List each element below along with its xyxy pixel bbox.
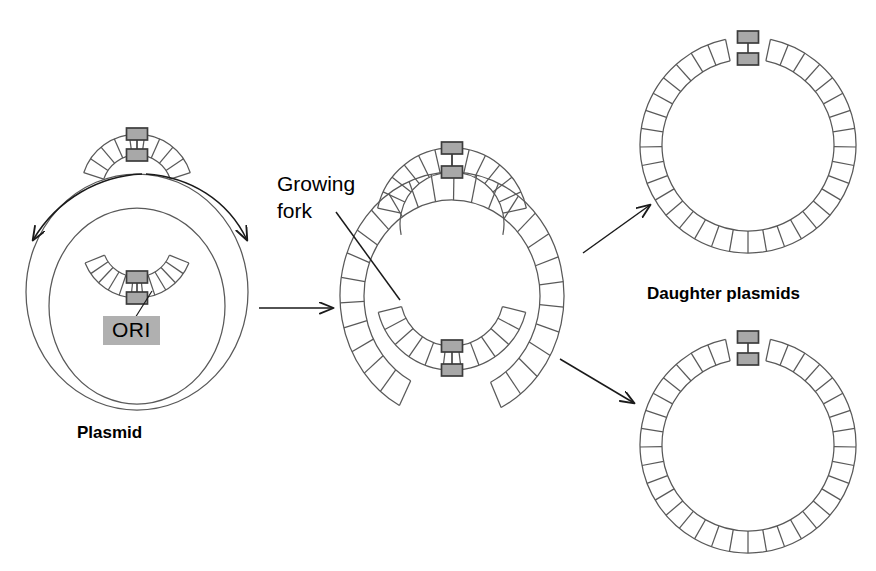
daughter-plasmid-bottom-rung [711, 526, 718, 547]
theta-eye-bottom-rung [491, 329, 509, 345]
daughter-plasmid-top-rung [655, 189, 674, 200]
daughter-plasmid-top-rung [708, 45, 716, 65]
daughter-plasmid-top-inner-strand [662, 61, 834, 231]
daughter-plasmid-top-rung [833, 128, 855, 131]
daughter-plasmid-top-rung [805, 64, 820, 80]
daughter-plasmid-top-rung [828, 176, 849, 184]
daughter-plasmid-top-rung [666, 201, 683, 215]
daughter-plasmid-bottom-rung [813, 501, 830, 515]
daughter-plasmid-bottom-rung [815, 378, 832, 392]
parent-eye-bottom-rung [108, 272, 119, 290]
daughter-plasmid-bottom-rung [828, 476, 849, 484]
daughter-plasmid-bottom-rung [647, 476, 668, 484]
daughter-plasmids-caption: Daughter plasmids [647, 284, 800, 303]
theta-outer-rung [540, 305, 564, 308]
daughter-plasmid-top-rung [663, 78, 680, 92]
replication-direction-left-arrow [33, 174, 142, 240]
theta-outer-rung [340, 301, 364, 303]
daughter-plasmid-bottom-rung [824, 393, 843, 404]
daughter-plasmid-top-rung [763, 230, 767, 252]
daughter-plasmid-top-rung [653, 93, 672, 104]
stage-parent-plasmid [26, 128, 248, 410]
theta-outer-rung [364, 356, 383, 373]
theta-outer-rung [341, 277, 365, 281]
daughter-plasmid-top-rung [793, 53, 805, 72]
theta-eye-bottom-rung [378, 307, 401, 313]
stage-daughter-plasmid-bottom [640, 331, 856, 553]
daughter-plasmid-top-rung [766, 39, 771, 61]
daughter-plasmid-top-rung [691, 53, 703, 72]
stage-arrow-2-to-bottom [560, 359, 634, 403]
theta-unreplicated-left-inner [400, 213, 401, 235]
daughter-plasmid-top-rung [647, 176, 668, 184]
ori-marker-daughter-plasmid-top-block-outer [738, 31, 759, 43]
daughter-plasmid-top-rung [726, 39, 731, 61]
parent-eye-bottom-rung [91, 262, 108, 274]
parent-eye-bottom-rung [166, 262, 183, 274]
parent-eye-top-rung [84, 173, 104, 179]
theta-outer-rung [506, 372, 521, 394]
daughter-plasmid-top-rung [729, 230, 733, 252]
daughter-plasmid-bottom-rung [676, 364, 691, 380]
daughter-plasmid-top-rung [803, 211, 817, 228]
parent-eye-bottom-rung [99, 267, 113, 282]
ori-label-chip: ORI [103, 316, 160, 345]
daughter-plasmid-bottom-rung [780, 345, 788, 365]
parent-eye-top-rung [101, 147, 115, 163]
daughter-plasmid-top-rung [822, 189, 841, 200]
ori-marker-daughter-plasmid-bottom-block-inner [738, 353, 759, 365]
theta-outer-rung [529, 342, 550, 355]
parent-inner-strand [49, 208, 225, 404]
daughter-plasmid-bottom-rung [832, 461, 854, 465]
theta-eye-bottom-rung [409, 337, 423, 357]
theta-eye-top-rung [419, 156, 430, 178]
stage-theta-intermediate [336, 142, 564, 407]
theta-outer-rung [431, 174, 435, 202]
daughter-plasmid-bottom-rung [646, 410, 667, 417]
theta-eye-bottom-rung [502, 307, 525, 313]
ori-marker-theta-bottom-block-outer [442, 364, 463, 376]
daughter-plasmid-top-rung [646, 110, 667, 117]
ori-marker-theta-top-block-outer [442, 142, 463, 154]
parent-eye-bottom-rung [161, 267, 175, 282]
theta-outer-rung [539, 282, 563, 285]
daughter-plasmid-top-rung [679, 211, 693, 228]
theta-outer-rung [536, 324, 559, 332]
daughter-plasmid-bottom-rung [691, 353, 703, 372]
daughter-plasmid-bottom-inner-strand [662, 361, 834, 531]
daughter-plasmid-bottom-rung [766, 339, 771, 361]
theta-eye-top-rung [503, 208, 526, 213]
daughter-plasmid-top-rung [829, 110, 850, 117]
ori-marker-daughter-plasmid-bottom-block-outer [738, 331, 759, 343]
theta-eye-bottom-rung [470, 343, 479, 365]
theta-outer-rung [399, 381, 410, 406]
growing-fork-caption-line2: fork [277, 199, 312, 223]
theta-outer-rung [489, 183, 499, 208]
daughter-plasmid-top-outer-strand [640, 39, 856, 253]
daughter-plasmid-bottom-rung [791, 520, 802, 539]
theta-eye-top-rung [464, 150, 469, 173]
daughter-plasmid-bottom-rung [653, 393, 672, 404]
daughter-plasmid-top-rung [813, 201, 830, 215]
daughter-plasmid-bottom-rung [666, 501, 683, 515]
daughter-plasmid-bottom-rung [833, 428, 855, 431]
theta-outer-rung [352, 339, 373, 352]
parent-eye-bottom-rung [119, 275, 126, 295]
theta-eye-top-rung [383, 192, 405, 202]
theta-outer-rung [380, 370, 395, 392]
ori-marker-theta-top-block-inner [442, 166, 463, 178]
parent-eye-bottom-rung [169, 255, 188, 263]
ori-marker-parent-top-block-outer [127, 128, 148, 140]
parent-eye-top-rung [166, 159, 183, 171]
parent-eye-top-rung [114, 139, 123, 158]
daughter-plasmid-bottom-rung [663, 378, 680, 392]
theta-eye-bottom-rung [395, 329, 413, 345]
daughter-plasmid-top-rung [815, 78, 832, 92]
daughter-plasmid-top-rung [676, 64, 691, 80]
ori-marker-parent-top-block-inner [127, 149, 148, 161]
daughter-plasmid-bottom-rung [695, 520, 706, 539]
stage-daughter-plasmid-top [640, 31, 856, 253]
theta-outer-rung [519, 358, 537, 376]
theta-eye-bottom-rung [481, 337, 495, 357]
ori-marker-parent-bottom-block-inner [127, 271, 148, 283]
